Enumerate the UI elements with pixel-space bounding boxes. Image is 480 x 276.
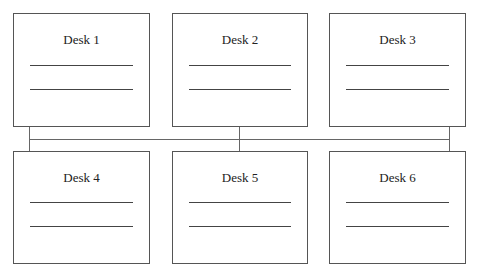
desk-4: Desk 4 [13, 151, 150, 264]
blank-line [346, 89, 449, 90]
blank-line [346, 202, 449, 203]
desk-label: Desk 4 [14, 170, 149, 186]
desk-6: Desk 6 [329, 151, 466, 264]
desk-2: Desk 2 [172, 13, 308, 127]
drop-line-center [239, 127, 240, 151]
desk-3: Desk 3 [329, 13, 466, 127]
desk-label: Desk 2 [173, 32, 307, 48]
blank-line [30, 89, 133, 90]
blank-line [189, 226, 291, 227]
blank-line [189, 202, 291, 203]
blank-line [189, 89, 291, 90]
desk-1: Desk 1 [13, 13, 150, 127]
drop-line-left [29, 127, 30, 151]
desk-label: Desk 5 [173, 170, 307, 186]
desk-label: Desk 1 [14, 32, 149, 48]
blank-line [346, 65, 449, 66]
drop-line-right [449, 127, 450, 151]
blank-line [346, 226, 449, 227]
desk-5: Desk 5 [172, 151, 308, 264]
blank-line [189, 65, 291, 66]
blank-line [30, 202, 133, 203]
blank-line [30, 226, 133, 227]
desk-label: Desk 3 [330, 32, 465, 48]
blank-line [30, 65, 133, 66]
desk-label: Desk 6 [330, 170, 465, 186]
